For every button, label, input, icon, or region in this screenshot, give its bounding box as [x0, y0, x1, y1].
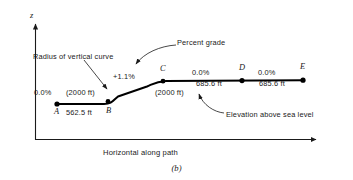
point-label-a: A: [54, 107, 59, 116]
vertical-profile-figure: z Horizontal along path Radius of vertic…: [0, 0, 353, 180]
elevation-label-de: 685.6 ft: [259, 79, 285, 88]
point-label-e: E: [300, 62, 305, 71]
elevation-label-cd: 685.6 ft: [196, 79, 222, 88]
radius-of-vertical-curve-callout: Radius of vertical curve: [33, 52, 113, 61]
point-label-d: D: [239, 63, 245, 72]
percent-grade-callout: Percent grade: [177, 38, 225, 47]
point-marker-c: [161, 79, 166, 84]
point-marker-e: [300, 78, 305, 83]
x-axis-label: Horizontal along path: [103, 148, 178, 157]
percent-grade-callout-leader: [136, 45, 176, 64]
curve-length-label-c: (2000 ft): [155, 88, 184, 97]
point-label-c: C: [160, 64, 166, 73]
point-marker-b: [106, 99, 111, 104]
grade-label-ab: 0.0%: [34, 88, 51, 97]
grade-label-de: 0.0%: [258, 68, 275, 77]
figure-caption: (b): [0, 163, 353, 173]
radius-callout-leader: [84, 60, 107, 89]
elevation-above-sea-level-callout: Elevation above sea level: [226, 110, 314, 119]
point-marker-a: [54, 101, 59, 106]
point-label-b: B: [106, 106, 111, 115]
grade-label-bc: +1.1%: [113, 72, 135, 81]
elevation-label-ab: 562.5 ft: [66, 108, 92, 117]
curve-length-label-b: (2000 ft): [66, 88, 95, 97]
grade-label-cd: 0.0%: [192, 68, 209, 77]
elevation-callout-leader: [199, 94, 224, 113]
y-axis-label: z: [30, 11, 33, 20]
point-marker-d: [239, 78, 244, 83]
